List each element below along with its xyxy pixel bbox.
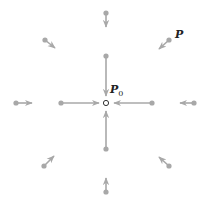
vector-base-dot — [191, 100, 196, 105]
vector-arrow — [103, 111, 108, 152]
vector-arrow — [42, 37, 55, 48]
vector-base-dot — [103, 189, 108, 194]
point-label-letter: P — [175, 28, 183, 41]
point-label: P — [175, 28, 183, 41]
vector-base-dot — [103, 53, 108, 58]
vector-arrow — [13, 100, 32, 105]
vector-base-dot — [41, 163, 46, 168]
vector-base-dot — [149, 100, 154, 105]
vector-arrow — [159, 157, 172, 169]
vector-arrow — [114, 100, 155, 105]
vector-base-dot — [13, 100, 18, 105]
center-point-p0 — [103, 100, 108, 105]
vector-arrow — [41, 156, 54, 169]
center-label-subscript: 0 — [118, 89, 123, 98]
center-label: P0 — [110, 83, 123, 98]
vector-arrow — [103, 10, 108, 27]
vector-arrow — [58, 100, 99, 105]
vector-base-dot — [42, 37, 47, 42]
vector-arrow — [159, 37, 172, 49]
vector-arrow — [180, 100, 197, 105]
vector-base-dot — [103, 10, 108, 15]
vector-base-dot — [166, 163, 171, 168]
vector-arrow — [103, 178, 108, 195]
vector-base-dot — [166, 37, 171, 42]
vector-base-dot — [103, 146, 108, 151]
vector-base-dot — [58, 100, 63, 105]
vector-arrow — [103, 53, 108, 96]
